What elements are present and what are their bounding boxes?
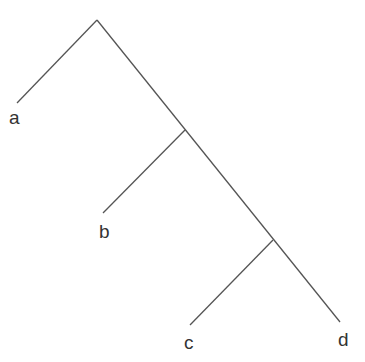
leaf-label-b: b	[99, 222, 110, 241]
branch-root-to-d	[97, 20, 340, 322]
cladogram-diagram: a b c d	[0, 0, 365, 362]
leaf-label-a: a	[9, 108, 20, 127]
branch-n1-to-b	[103, 130, 185, 213]
leaf-label-d: d	[338, 330, 349, 349]
tree-lines	[0, 0, 365, 362]
branch-n2-to-c	[190, 240, 273, 325]
leaf-label-c: c	[184, 333, 194, 352]
branch-root-to-a	[17, 20, 97, 103]
